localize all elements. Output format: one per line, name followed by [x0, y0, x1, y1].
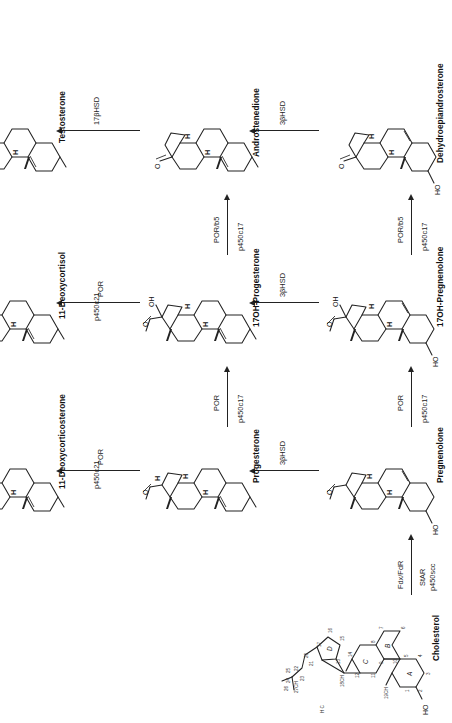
steroidogenesis-top-row: O OH O HO H H Aldosterone O	[0, 0, 452, 723]
